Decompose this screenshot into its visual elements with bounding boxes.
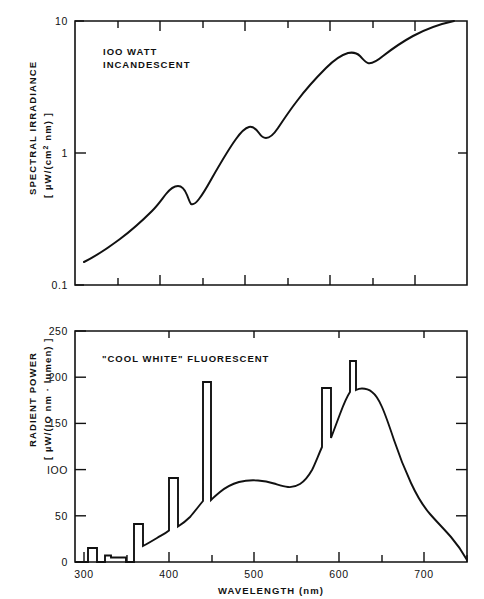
figure-root: 10 1 0.1 SPECTRAL IRRADIANCE [ µW/(cm2 n…	[0, 0, 484, 599]
fluorescent-ytick-label-250: 250	[49, 325, 68, 337]
fluorescent-ytick-label-50: 50	[55, 510, 68, 522]
fluorescent-xtick-label-300: 300	[74, 568, 93, 580]
fluorescent-spectrum	[75, 361, 467, 562]
fluorescent-xaxis-title: WAVELENGTH (nm)	[218, 585, 324, 596]
fluorescent-y-ticks	[75, 331, 86, 562]
fluorescent-y-ticks-right	[456, 377, 467, 516]
incandescent-yaxis-title: SPECTRAL IRRADIANCE	[27, 61, 38, 195]
fluorescent-xtick-label-500: 500	[244, 568, 263, 580]
panel-fluorescent: 250 200 150 IOO 50 0 300 400 500 600 700…	[27, 325, 467, 596]
incandescent-annotation-line1: IOO WATT	[103, 46, 157, 57]
fluorescent-xtick-label-700: 700	[414, 568, 433, 580]
fluorescent-ytick-label-0: 0	[62, 556, 68, 568]
fluorescent-xtick-label-400: 400	[159, 568, 178, 580]
yaxis-units-post: nm) ]	[42, 112, 53, 144]
fluorescent-x-ticks-top	[169, 331, 424, 338]
incandescent-x-ticks-bottom	[118, 275, 415, 285]
incandescent-yaxis-units: [ µW/(cm2 nm) ]	[42, 112, 53, 198]
fluorescent-ytick-label-100: IOO	[47, 464, 68, 476]
incandescent-ytick-label-0.1: 0.1	[52, 279, 68, 291]
incandescent-ytick-label-1: 1	[62, 147, 68, 159]
fluorescent-xtick-label-600: 600	[329, 568, 348, 580]
incandescent-y-ticks	[75, 21, 86, 285]
fluorescent-yaxis-title: RADIENT POWER	[27, 352, 38, 447]
fluorescent-x-ticks-bottom	[84, 552, 467, 562]
figure-svg: 10 1 0.1 SPECTRAL IRRADIANCE [ µW/(cm2 n…	[0, 0, 484, 599]
yaxis-units-pre: [ µW/(cm	[42, 149, 53, 198]
incandescent-ytick-label-10: 10	[55, 15, 68, 27]
incandescent-curve	[84, 21, 454, 262]
fluorescent-yaxis-units: [ µW/(IO nm · lumen) ]	[42, 337, 53, 460]
panel-incandescent: 10 1 0.1 SPECTRAL IRRADIANCE [ µW/(cm2 n…	[27, 15, 467, 291]
incandescent-annotation-line2: INCANDESCENT	[103, 59, 190, 70]
incandescent-x-ticks-top	[118, 21, 415, 31]
fluorescent-annotation: "COOL WHITE" FLUORESCENT	[102, 353, 269, 364]
